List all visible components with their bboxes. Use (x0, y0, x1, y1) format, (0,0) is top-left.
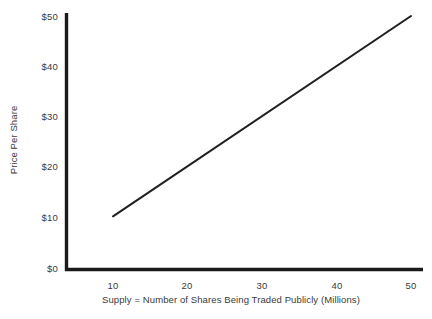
y-tick-label-50: $50 (42, 11, 58, 22)
x-tick-label-30: 30 (257, 280, 268, 291)
x-axis-title: Supply = Number of Shares Being Traded P… (102, 294, 360, 305)
x-tick-label-40: 40 (332, 280, 343, 291)
y-tick-label-0: $0 (47, 263, 58, 274)
y-tick-label-30: $30 (42, 111, 58, 122)
x-tick-label-20: 20 (182, 280, 193, 291)
y-axis-title: Price Per Share (8, 106, 19, 175)
y-tick-label-20: $20 (42, 161, 58, 172)
x-tick-label-50: 50 (406, 280, 417, 291)
y-tick-label-10: $10 (42, 212, 58, 223)
x-tick-label-10: 10 (108, 280, 119, 291)
chart-canvas: $50 $40 $30 $20 $10 $0 10 20 30 40 50 Su… (0, 0, 432, 319)
supply-curve-chart: $50 $40 $30 $20 $10 $0 10 20 30 40 50 Su… (0, 0, 432, 319)
y-tick-label-40: $40 (42, 61, 58, 72)
